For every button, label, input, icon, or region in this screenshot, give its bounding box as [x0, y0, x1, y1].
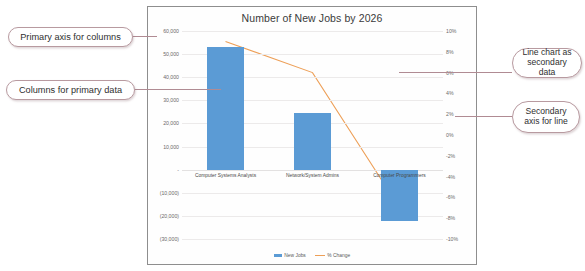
- primary-axis-tick-label: 60,000: [163, 28, 179, 34]
- secondary-axis-tick-label: 10%: [446, 28, 456, 34]
- callout-secondary-axis-line: Secondary axis for line: [512, 101, 580, 133]
- legend-label-pct-change: % Change: [327, 253, 350, 258]
- legend-label-new-jobs: New Jobs: [284, 253, 305, 258]
- callout-columns-primary-data: Columns for primary data: [6, 80, 135, 100]
- primary-axis-tick-label: 10,000: [163, 144, 179, 150]
- secondary-axis-tick-label: 4%: [446, 90, 454, 96]
- secondary-axis-tick-label: 8%: [446, 49, 454, 55]
- legend-line-icon: [315, 255, 325, 256]
- leader-line-columns-data: [135, 89, 221, 90]
- secondary-axis-tick-label: -8%: [446, 215, 455, 221]
- primary-axis-tick-label: 50,000: [163, 51, 179, 57]
- gridline: [182, 31, 443, 32]
- secondary-axis-tick-label: 2%: [446, 111, 454, 117]
- secondary-axis-tick-label: -2%: [446, 153, 455, 159]
- primary-axis-tick-label: (10,000): [160, 190, 179, 196]
- primary-axis-tick-label: -: [177, 167, 179, 173]
- legend-swatch-icon: [274, 254, 282, 258]
- primary-axis-tick-label: (30,000): [160, 236, 179, 242]
- secondary-axis-tick-label: -6%: [446, 194, 455, 200]
- legend-item-pct-change: % Change: [315, 253, 350, 258]
- figure-root: Number of New Jobs by 2026 60,00050,0004…: [0, 0, 585, 271]
- bar-0: [207, 47, 244, 169]
- primary-axis-tick-label: (20,000): [160, 213, 179, 219]
- chart-legend: New Jobs % Change: [148, 253, 476, 258]
- primary-axis-tick-label: 30,000: [163, 97, 179, 103]
- category-label-1: Network/System Admins: [286, 173, 339, 178]
- callout-line-chart-secondary: Line chart as secondary data: [512, 48, 582, 78]
- bar-1: [294, 113, 331, 170]
- leader-line-secondary-axis: [455, 116, 512, 117]
- gridline: [182, 239, 443, 240]
- leader-line-primary-axis: [133, 36, 157, 37]
- primary-axis-tick-label: 20,000: [163, 120, 179, 126]
- primary-axis-tick-label: 40,000: [163, 74, 179, 80]
- secondary-axis-tick-label: -4%: [446, 174, 455, 180]
- leader-line-line-chart: [399, 72, 512, 73]
- callout-primary-axis-columns: Primary axis for columns: [8, 27, 133, 47]
- secondary-axis-tick-label: -10%: [446, 236, 458, 242]
- secondary-axis-tick-label: 0%: [446, 132, 454, 138]
- chart-container: Number of New Jobs by 2026 60,00050,0004…: [147, 6, 477, 265]
- category-label-2: Computer Programmers: [373, 173, 425, 178]
- legend-item-new-jobs: New Jobs: [274, 253, 306, 258]
- category-label-0: Computer Systems Analysts: [195, 173, 256, 178]
- plot-area: 60,00050,00040,00030,00020,00010,000-(10…: [182, 31, 443, 239]
- chart-title: Number of New Jobs by 2026: [148, 12, 476, 24]
